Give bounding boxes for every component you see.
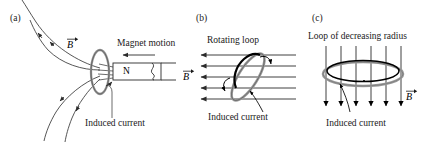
magnet-north-pole-label: N	[123, 66, 130, 76]
loop-inner-decreased	[327, 61, 399, 82]
current-direction-dot	[363, 80, 365, 82]
induced-current-label-c: Induced current	[326, 119, 386, 129]
b-field-label-b: B	[183, 68, 189, 82]
b-field-label-c: B	[406, 88, 412, 102]
induced-current-leader-b	[250, 91, 263, 112]
magnet-motion-label: Magnet motion	[117, 39, 175, 49]
panel-b-rotating-loop: (b) Rotating loop B Induced current	[180, 0, 300, 143]
uniform-field-lines-c	[326, 46, 401, 106]
panel-b-tag: (b)	[196, 14, 207, 24]
b-vector-arrow-c	[406, 88, 412, 92]
induced-current-label-a: Induced current	[85, 119, 145, 129]
rotating-loop-heading: Rotating loop	[207, 36, 259, 46]
induced-current-leader-a	[107, 85, 112, 118]
induced-current-label-b: Induced current	[208, 113, 268, 123]
b-vector-arrow-a	[67, 36, 73, 40]
coil-outline	[91, 50, 109, 94]
panel-a-tag: (a)	[10, 14, 21, 24]
loop-outer-outline	[323, 62, 403, 86]
panel-c-tag: (c)	[312, 14, 323, 24]
induced-current-figure: (a) B Magnet motion N Induced current	[0, 0, 439, 143]
pole-flux-lines	[98, 64, 113, 80]
panel-c-shrinking-loop: (c) Loop of decreasing radius B Induced …	[300, 0, 439, 143]
panel-a-magnet-into-coil: (a) B Magnet motion N Induced current	[0, 0, 180, 143]
b-field-label-a: B	[67, 36, 73, 50]
rotation-arrow-bottom	[224, 78, 230, 91]
induced-current-leader-c	[340, 84, 350, 112]
decreasing-radius-heading: Loop of decreasing radius	[308, 32, 407, 42]
b-vector-arrow-b	[183, 68, 189, 72]
